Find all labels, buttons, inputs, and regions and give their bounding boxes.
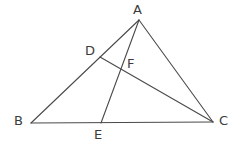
segment-AB <box>31 20 139 123</box>
segment-AC <box>139 20 213 122</box>
geometry-figure: A B C D E F <box>0 0 242 146</box>
vertex-label-E: E <box>94 128 102 141</box>
figure-canvas <box>0 0 242 146</box>
vertex-label-A: A <box>133 3 142 16</box>
vertex-label-B: B <box>14 114 23 127</box>
vertex-label-D: D <box>85 44 95 57</box>
vertex-label-F: F <box>127 57 134 70</box>
vertex-label-C: C <box>219 114 228 127</box>
segment-DC <box>100 57 213 122</box>
segment-BC <box>31 122 213 123</box>
segment-AE <box>101 20 139 123</box>
